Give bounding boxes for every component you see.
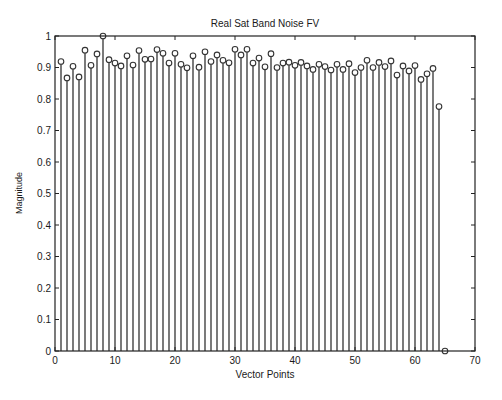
stem-point bbox=[328, 67, 334, 351]
stem-marker bbox=[190, 53, 196, 59]
y-tick-label: 0.1 bbox=[37, 314, 51, 325]
stem-point bbox=[304, 63, 310, 351]
x-tick-label: 0 bbox=[52, 355, 58, 366]
stem-point bbox=[364, 57, 370, 351]
stem-point bbox=[160, 51, 166, 351]
stem-point bbox=[124, 53, 130, 351]
x-axis-label: Vector Points bbox=[236, 369, 295, 380]
stem-point bbox=[274, 65, 280, 351]
stem-marker bbox=[142, 57, 148, 63]
stem-marker bbox=[262, 64, 268, 70]
stem-marker bbox=[268, 51, 274, 57]
stem-marker bbox=[418, 77, 424, 83]
y-axis-label: Magnitude bbox=[14, 172, 24, 214]
stem-marker bbox=[424, 71, 430, 77]
stem-point bbox=[376, 60, 382, 351]
stem-marker bbox=[244, 46, 250, 52]
x-tick-label: 20 bbox=[169, 355, 181, 366]
y-tick-label: 0.4 bbox=[37, 220, 51, 231]
y-tick-label: 1 bbox=[45, 31, 51, 42]
stem-marker bbox=[292, 62, 298, 68]
stem-point bbox=[238, 52, 244, 351]
stem-marker bbox=[130, 62, 136, 68]
stem-point bbox=[184, 65, 190, 351]
y-tick-label: 0.8 bbox=[37, 94, 51, 105]
stem-point bbox=[220, 57, 226, 351]
stem-point bbox=[130, 62, 136, 351]
stem-point bbox=[202, 49, 208, 351]
stem-point bbox=[112, 60, 118, 351]
stem-point bbox=[70, 63, 76, 351]
stem-point bbox=[154, 47, 160, 351]
stem-point bbox=[100, 33, 106, 351]
stem-marker bbox=[250, 60, 256, 66]
stem-point bbox=[346, 61, 352, 351]
stem-point bbox=[148, 56, 154, 351]
x-tick-label: 50 bbox=[349, 355, 361, 366]
stem-marker bbox=[64, 75, 70, 81]
stem-point bbox=[190, 53, 196, 351]
stem-point bbox=[214, 52, 220, 351]
x-tick-label: 10 bbox=[109, 355, 121, 366]
stem-marker bbox=[196, 64, 202, 70]
stem-point bbox=[436, 104, 442, 351]
stem-point bbox=[406, 68, 412, 351]
stem-point bbox=[244, 46, 250, 351]
stem-marker bbox=[340, 67, 346, 73]
stem-point bbox=[118, 63, 124, 351]
y-tick-label: 0.7 bbox=[37, 125, 51, 136]
y-tick-label: 0.6 bbox=[37, 157, 51, 168]
stem-marker bbox=[118, 63, 124, 69]
stem-point bbox=[430, 66, 436, 351]
stem-marker bbox=[106, 57, 112, 63]
y-tick-label: 0.3 bbox=[37, 251, 51, 262]
chart-title: Real Sat Band Noise FV bbox=[211, 18, 320, 29]
stem-point bbox=[172, 51, 178, 351]
stem-marker bbox=[280, 60, 286, 66]
stem-marker bbox=[154, 47, 160, 53]
y-tick-label: 0.9 bbox=[37, 62, 51, 73]
stem-point bbox=[292, 62, 298, 351]
stem-point bbox=[208, 59, 214, 351]
stem-marker bbox=[388, 58, 394, 64]
stem-marker bbox=[382, 64, 388, 70]
stem-point bbox=[400, 63, 406, 351]
stem-point bbox=[370, 65, 376, 351]
y-tick-label: 0 bbox=[45, 346, 51, 357]
stem-marker bbox=[376, 60, 382, 66]
stem-marker bbox=[112, 60, 118, 66]
stem-point bbox=[88, 62, 94, 351]
stem-point bbox=[268, 51, 274, 351]
stem-marker bbox=[286, 59, 292, 65]
stem-point bbox=[388, 58, 394, 351]
stem-marker bbox=[352, 70, 358, 76]
stem-marker bbox=[316, 62, 322, 68]
stem-marker bbox=[88, 62, 94, 68]
stem-marker bbox=[436, 104, 442, 110]
x-tick-label: 70 bbox=[469, 355, 481, 366]
stem-point bbox=[322, 64, 328, 351]
stem-marker bbox=[322, 64, 328, 70]
stem-marker bbox=[274, 65, 280, 71]
stem-point bbox=[82, 47, 88, 351]
stem-marker bbox=[76, 74, 82, 80]
stem-marker bbox=[400, 63, 406, 69]
stem-point bbox=[58, 59, 64, 351]
stem-marker bbox=[364, 57, 370, 63]
stem-marker bbox=[82, 47, 88, 53]
stem-marker bbox=[358, 65, 364, 71]
stem-point bbox=[298, 60, 304, 351]
stem-point bbox=[178, 62, 184, 351]
stem-marker bbox=[226, 60, 232, 66]
stem-marker bbox=[172, 51, 178, 57]
x-axis-ticks: 010203040506070 bbox=[52, 36, 481, 366]
stem-marker bbox=[58, 59, 64, 65]
stem-marker bbox=[310, 67, 316, 73]
stem-marker bbox=[304, 63, 310, 69]
stem-point bbox=[64, 75, 70, 351]
stem-point bbox=[280, 60, 286, 351]
stem-marker bbox=[238, 52, 244, 58]
stem-point bbox=[382, 64, 388, 351]
stem-marker bbox=[232, 46, 238, 52]
stem-marker bbox=[184, 65, 190, 71]
